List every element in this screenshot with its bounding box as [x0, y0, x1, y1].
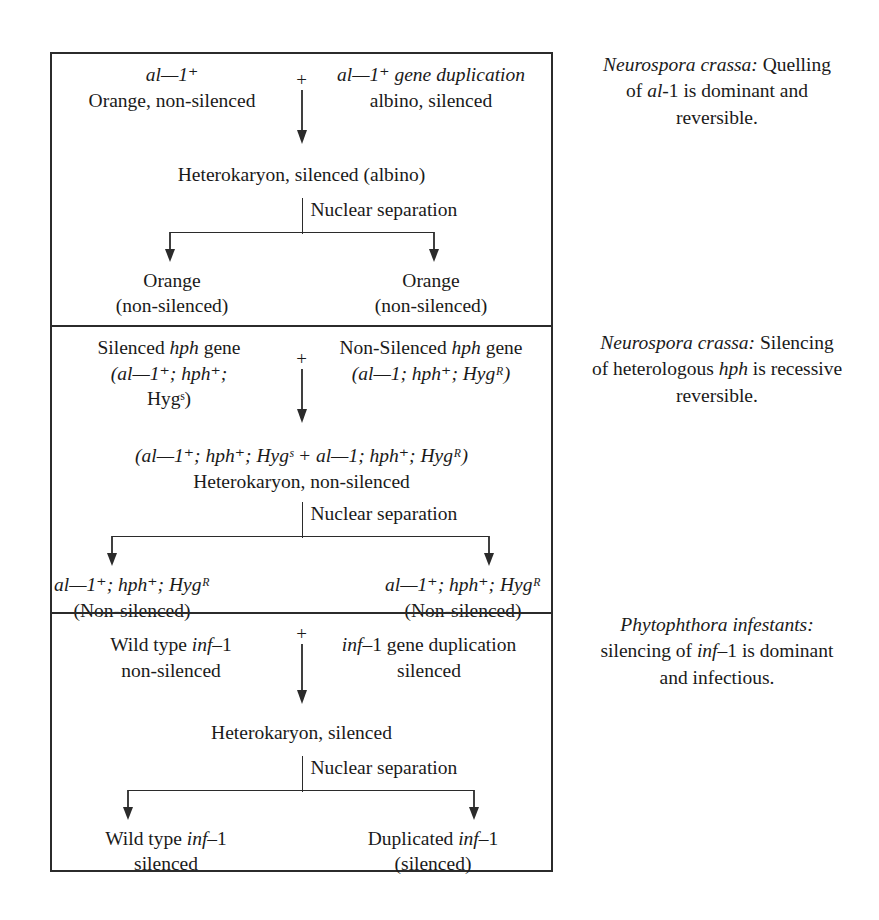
panel2-nuclear-separation-split: Nuclear separation: [52, 502, 551, 572]
panel1-outcome-left-line2: (non-silenced): [58, 293, 286, 319]
panel1-parent-right-genotype: al—1⁺ gene duplication: [337, 64, 525, 85]
caption1-line2b: -1 is dominant and: [662, 80, 808, 101]
caption2-line1-rest: Silencing: [755, 332, 834, 353]
panel2-split-stem: [302, 502, 303, 538]
panel3-outcome-right-line1: Duplicated inf–1: [321, 826, 545, 852]
caption-neurospora-hph: Neurospora crassa: Silencing of heterolo…: [567, 330, 867, 409]
panel3-outcome-right: Duplicated inf–1 (silenced): [321, 826, 545, 877]
caption2-line2: of heterologous hph is recessive: [567, 356, 867, 382]
panel2-split-crossbar: [112, 536, 489, 537]
panel2-merge-arrow-icon: [294, 369, 310, 425]
caption1-line3: reversible.: [567, 105, 867, 131]
panel2-parent-right: Non-Silenced hph gene (al—1; hph⁺; Hygᴿ): [313, 335, 549, 386]
panel3-split-label: Nuclear separation: [311, 756, 458, 779]
panel1-parent-left-line2: Orange, non-silenced: [60, 88, 284, 114]
panel3-nuclear-separation-split: Nuclear separation: [52, 756, 551, 826]
panel3-parent-row: Wild type inf–1 non-silenced + inf–1 gen…: [52, 614, 551, 714]
panel2-parent-right-line1a: Non-Silenced: [339, 337, 451, 358]
panel1-split-label: Nuclear separation: [311, 198, 458, 221]
caption1-gene: al: [647, 80, 662, 101]
caption3-line2a: silencing of: [601, 640, 697, 661]
panel3-merge-arrow-icon: [294, 644, 310, 706]
panel1-parent-row: al—1⁺ Orange, non-silenced + al—1⁺ gene …: [52, 54, 551, 150]
panel3-outcome-right-gene: inf: [458, 828, 479, 849]
panel2-branch-arrow-right-icon: [481, 536, 497, 568]
panel3-outcome-right-line2: (silenced): [321, 851, 545, 877]
panel1-outcome-row: Orange (non-silenced) Orange (non-silenc…: [52, 268, 551, 328]
panel3-split-stem: [302, 756, 303, 792]
caption2-line2a: of heterologous: [592, 358, 719, 379]
panel1-split-crossbar: [170, 232, 434, 233]
panel3-outcome-right-line1a: Duplicated: [368, 828, 458, 849]
panel1-split-stem: [302, 198, 303, 234]
panel3-outcome-row: Wild type inf–1 silenced Duplicated inf–…: [52, 826, 551, 886]
panel2-parent-right-gene: hph: [452, 337, 481, 358]
panel2-heterokaryon-label: Heterokaryon, non-silenced: [52, 469, 551, 495]
caption1-line1: Neurospora crassa: Quelling: [567, 52, 867, 78]
panel2-split-label: Nuclear separation: [311, 502, 458, 525]
panel3-parent-right: inf–1 gene duplication silenced: [311, 632, 547, 683]
panel1-branch-arrow-left-icon: [162, 232, 178, 264]
panel3-parent-right-line1b: –1 gene duplication: [362, 634, 516, 655]
caption2-gene: hph: [719, 358, 748, 379]
panel2-genotype-line: (al—1⁺; hph⁺; Hygˢ + al—1; hph⁺; Hygᴿ): [52, 443, 551, 469]
panel3-outcome-left: Wild type inf–1 silenced: [60, 826, 272, 877]
panel3-outcome-left-gene: inf: [187, 828, 208, 849]
panel2-parent-right-line2: (al—1; hph⁺; Hygᴿ): [313, 361, 549, 387]
panel2-parent-left: Silenced hph gene (al—1⁺; hph⁺; Hygˢ): [56, 335, 282, 412]
panel1-outcome-right-line1: Orange: [315, 268, 547, 294]
panel1-outcome-right: Orange (non-silenced): [315, 268, 547, 319]
panel2-branch-arrow-left-icon: [104, 536, 120, 568]
panel3-heterokaryon-label: Heterokaryon, silenced: [52, 720, 551, 746]
panel3-outcome-left-line1b: –1: [207, 828, 227, 849]
panel3-parent-right-line1: inf–1 gene duplication: [311, 632, 547, 658]
caption1-organism: Neurospora crassa:: [603, 54, 758, 75]
caption3-line2b: –1 is dominant: [718, 640, 834, 661]
panel3-parent-right-gene: inf: [342, 634, 363, 655]
panel1-merge-arrow-icon: [294, 90, 310, 146]
panel1-outcome-left-line1: Orange: [58, 268, 286, 294]
caption2-line2b: is recessive: [748, 358, 842, 379]
panel-phytophthora-inf1: Wild type inf–1 non-silenced + inf–1 gen…: [52, 612, 551, 874]
panel1-outcome-left: Orange (non-silenced): [58, 268, 286, 319]
panel-neurospora-hph: Silenced hph gene (al—1⁺; hph⁺; Hygˢ) + …: [52, 325, 551, 612]
caption2-line3: reversible.: [567, 383, 867, 409]
panel1-nuclear-separation-split: Nuclear separation: [52, 198, 551, 268]
panel3-outcome-left-line2: silenced: [60, 851, 272, 877]
panel2-parent-row: Silenced hph gene (al—1⁺; hph⁺; Hygˢ) + …: [52, 327, 551, 439]
caption-neurospora-al1: Neurospora crassa: Quelling of al-1 is d…: [567, 52, 867, 131]
panel2-parent-right-line1: Non-Silenced hph gene: [313, 335, 549, 361]
caption-phytophthora-inf1: Phytophthora infestants: silencing of in…: [567, 612, 867, 691]
panel3-parent-right-line2: silenced: [311, 658, 547, 684]
panel3-branch-arrow-right-icon: [466, 790, 482, 822]
caption3-line2: silencing of inf–1 is dominant: [567, 638, 867, 664]
panel3-split-crossbar: [128, 790, 474, 791]
diagram-outline-box: al—1⁺ Orange, non-silenced + al—1⁺ gene …: [50, 52, 553, 872]
panel1-heterokaryon-label: Heterokaryon, silenced (albino): [52, 162, 551, 188]
panel1-parent-right-line2: albino, silenced: [315, 88, 547, 114]
panel1-parent-right-line1: al—1⁺ gene duplication: [315, 62, 547, 88]
caption2-organism: Neurospora crassa:: [600, 332, 755, 353]
panel3-branch-arrow-left-icon: [120, 790, 136, 822]
panel2-outcome-left-line1: al—1⁺; hph⁺; Hygᴿ: [52, 572, 212, 598]
panel1-branch-arrow-right-icon: [426, 232, 442, 264]
panel3-parent-left-line2: non-silenced: [60, 658, 282, 684]
panel1-parent-right: al—1⁺ gene duplication albino, silenced: [315, 62, 547, 113]
caption3-line3: and infectious.: [567, 665, 867, 691]
panel1-outcome-right-line2: (non-silenced): [315, 293, 547, 319]
panel2-outcome-right-line1: al—1⁺; hph⁺; Hygᴿ: [375, 572, 551, 598]
panel-neurospora-al1: al—1⁺ Orange, non-silenced + al—1⁺ gene …: [52, 54, 551, 325]
panel3-outcome-left-line1: Wild type inf–1: [60, 826, 272, 852]
caption3-gene: inf: [697, 640, 718, 661]
panel2-parent-right-line1b: gene: [481, 337, 523, 358]
panel3-outcome-right-line1b: –1: [479, 828, 499, 849]
caption1-line2a: of: [626, 80, 647, 101]
panel2-parent-left-line3: Hygˢ): [56, 386, 282, 412]
caption2-line1: Neurospora crassa: Silencing: [567, 330, 867, 356]
panel3-outcome-left-line1a: Wild type: [105, 828, 187, 849]
caption1-line2: of al-1 is dominant and: [567, 78, 867, 104]
caption1-line1-rest: Quelling: [758, 54, 831, 75]
caption3-organism: Phytophthora infestants:: [567, 612, 867, 638]
